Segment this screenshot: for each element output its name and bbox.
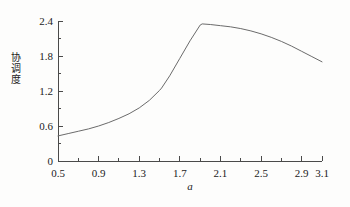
chart-plot-area: 0.50.91.31.72.12.52.93.1 00.61.21.82.4 a [0,0,350,207]
x-tick-label: 1.7 [173,167,187,179]
x-tick-label: 2.5 [254,167,268,179]
y-tick-label: 2.4 [39,15,53,27]
x-tick-label: 2.1 [214,167,228,179]
y-tick-label: 0 [48,155,54,167]
x-tick-label: 0.5 [51,167,65,179]
y-tick-label: 1.2 [39,85,53,97]
x-tick-label: 3.1 [315,167,329,179]
y-axis-ticks [58,21,63,161]
data-series-line [58,24,322,136]
x-axis-tick-labels: 0.50.91.31.72.12.52.93.1 [51,167,329,179]
chart-container: 协 调 度 0.50.91.31.72.12.52.93.1 00.61.21.… [0,0,350,207]
x-tick-label: 0.9 [92,167,106,179]
y-tick-label: 1.8 [39,50,53,62]
x-tick-label: 2.9 [295,167,309,179]
y-axis-tick-labels: 00.61.21.82.4 [39,15,53,167]
x-tick-label: 1.3 [132,167,146,179]
y-tick-label: 0.6 [39,120,53,132]
x-axis-ticks [58,156,322,161]
x-axis-title: a [187,180,193,192]
